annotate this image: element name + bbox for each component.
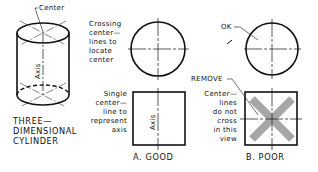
good-caption: A. GOOD (133, 152, 173, 162)
good-square-note-4: represent (91, 117, 127, 125)
cylinder-caption-line-2: DIMENSIONAL (13, 126, 77, 136)
poor-square-view (227, 79, 302, 150)
poor-square-note-2: lines (219, 99, 237, 107)
poor-square-note-4: cross (217, 117, 237, 125)
good-axis-label: Axis (149, 114, 157, 130)
good-square-note-3: line to (103, 108, 127, 116)
centerline-diagram: Center Axis THREE— DIMENSIONAL CYLINDER … (0, 0, 318, 172)
remove-label: REMOVE (191, 75, 223, 83)
good-circle-note-1: Crossing (89, 20, 121, 28)
cylinder-drawing (17, 8, 69, 107)
cylinder-caption-line-1: THREE— (12, 116, 52, 126)
poor-caption: B. POOR (246, 152, 285, 162)
good-circle-note-3: lines to (89, 38, 117, 46)
good-circle-note-2: center— (89, 29, 121, 37)
good-circle-note-5: center (89, 56, 113, 64)
good-square-note-1: Single (104, 90, 127, 98)
cylinder-caption-line-3: CYLINDER (13, 136, 59, 146)
poor-square-note-1: Center— (204, 90, 237, 98)
poor-circle-view (227, 19, 301, 79)
center-label: Center (39, 4, 64, 12)
good-square-note-5: axis (112, 126, 127, 134)
cylinder-axis-label: Axis (34, 63, 42, 79)
good-square-view (133, 88, 185, 150)
good-circle-view (128, 18, 189, 80)
ok-label: OK (221, 23, 232, 31)
poor-square-note-5: in this (214, 126, 238, 134)
poor-square-note-3: do not (213, 108, 237, 116)
poor-square-note-6: view (220, 135, 237, 143)
good-square-note-2: center— (95, 99, 127, 107)
good-circle-note-4: locate (89, 47, 112, 55)
